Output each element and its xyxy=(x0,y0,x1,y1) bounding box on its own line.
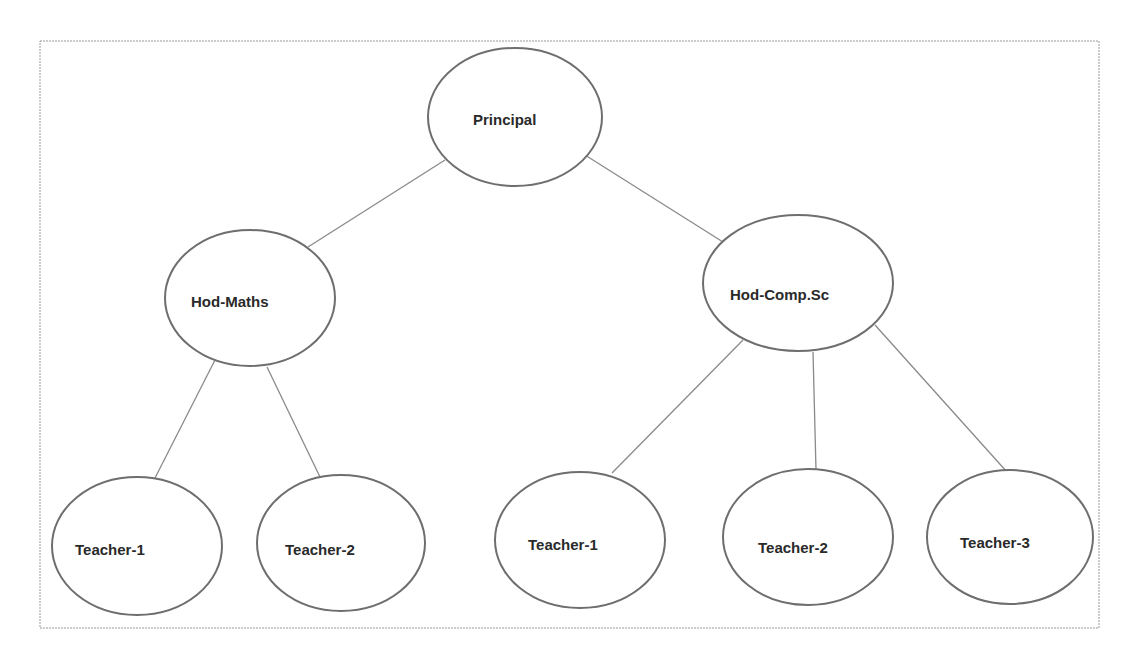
node-maths-teacher-1: Teacher-1 xyxy=(52,477,222,615)
edge-hod-maths-teacher-2 xyxy=(267,367,320,477)
edge-principal-hod-compsc xyxy=(585,155,723,242)
node-label: Hod-Maths xyxy=(191,293,269,310)
node-label: Teacher-2 xyxy=(285,541,355,558)
edge-hod-compsc-teacher-3 xyxy=(875,325,1007,472)
node-hod-maths: Hod-Maths xyxy=(165,230,335,366)
node-ellipse xyxy=(703,215,893,351)
node-label: Teacher-2 xyxy=(758,539,828,556)
node-compsc-teacher-2: Teacher-2 xyxy=(723,469,893,605)
edge-hod-maths-teacher-1 xyxy=(155,360,215,478)
edge-hod-compsc-teacher-2 xyxy=(813,352,816,470)
node-ellipse xyxy=(723,469,893,605)
node-compsc-teacher-3: Teacher-3 xyxy=(927,470,1093,604)
node-label: Hod-Comp.Sc xyxy=(730,286,829,303)
node-hod-compsc: Hod-Comp.Sc xyxy=(703,215,893,351)
edge-hod-compsc-teacher-1 xyxy=(612,340,743,473)
node-label: Teacher-1 xyxy=(75,541,145,558)
edge-principal-hod-maths xyxy=(308,160,445,247)
node-compsc-teacher-1: Teacher-1 xyxy=(495,472,665,608)
node-maths-teacher-2: Teacher-2 xyxy=(257,475,425,611)
nodes: Principal Hod-Maths Hod-Comp.Sc Teacher-… xyxy=(52,48,1093,615)
node-principal: Principal xyxy=(428,48,602,186)
node-label: Teacher-1 xyxy=(528,536,598,553)
node-label: Principal xyxy=(473,111,536,128)
org-chart-diagram: Principal Hod-Maths Hod-Comp.Sc Teacher-… xyxy=(0,0,1131,660)
node-label: Teacher-3 xyxy=(960,534,1030,551)
